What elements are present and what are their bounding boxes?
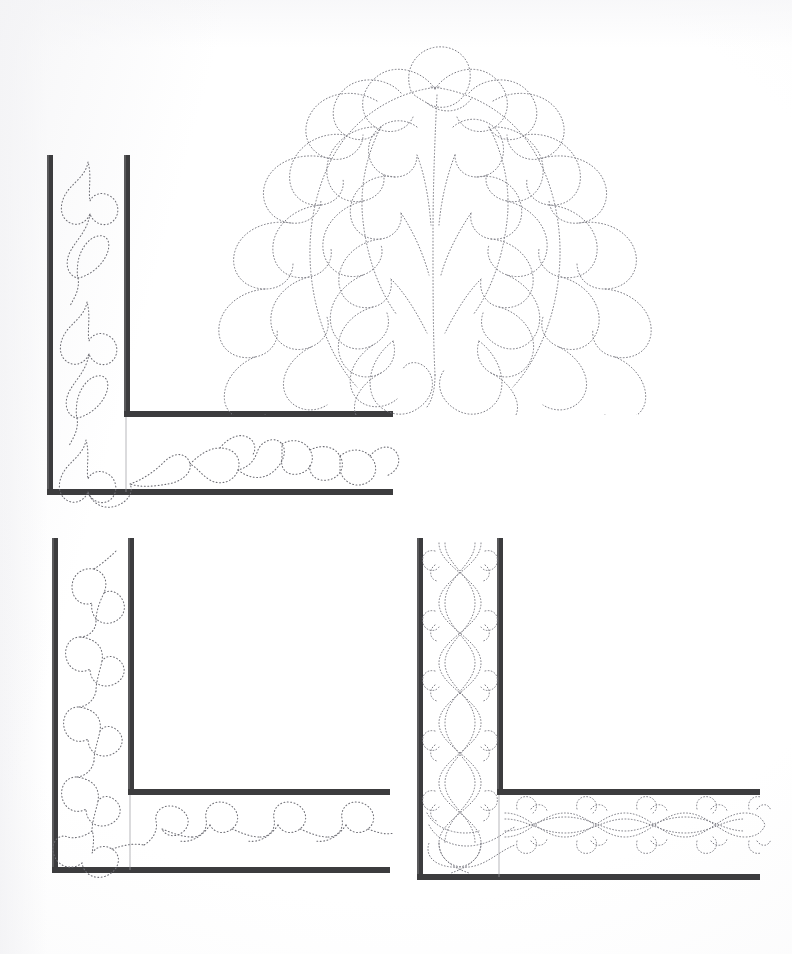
corner-cable-braid-artwork [405, 525, 775, 890]
rail-group-clover [52, 538, 390, 873]
cable-horizontal-curls [517, 797, 771, 854]
rail-outer-horizontal [417, 874, 760, 880]
rail-outer-vertical-highlight [52, 538, 54, 873]
cable-vertical-braid [439, 543, 481, 873]
clover-horizontal-chain [144, 802, 394, 845]
rail-inner-horizontal [497, 789, 760, 795]
rail-outer-vertical-highlight [417, 538, 419, 880]
feather-plume-artwork [145, 35, 705, 415]
stencil-page [0, 0, 792, 954]
feather-arc-right [431, 69, 651, 415]
rail-inner-vertical-highlight [128, 538, 130, 790]
vine-horizontal-motif [130, 436, 399, 487]
rail-inner-horizontal [128, 789, 390, 795]
rail-group-cable [417, 538, 760, 880]
clover-vertical-chain [62, 551, 125, 831]
design-corner-clover [34, 525, 404, 885]
rail-inner-vertical-highlight [124, 155, 126, 412]
rail-outer-vertical-highlight [47, 155, 49, 493]
cable-vertical-curls [423, 551, 498, 821]
rail-outer-horizontal [52, 867, 390, 873]
rail-inner-vertical-highlight [497, 538, 499, 790]
cable-corner-junction [427, 813, 515, 867]
cable-horizontal-braid [505, 813, 765, 837]
vine-corner-blossom [64, 440, 131, 507]
design-corner-cable-braid [405, 525, 775, 890]
design-feather-plume-wreath [145, 35, 705, 415]
vine-vertical-motif [59, 162, 117, 498]
corner-clover-artwork [34, 525, 404, 885]
rail-outer-horizontal [47, 489, 393, 495]
feather-arc-left [219, 69, 439, 415]
feather-plume-center [338, 47, 533, 415]
